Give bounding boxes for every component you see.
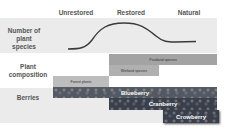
bar-wetland-species: Wetland species <box>109 65 159 76</box>
bar-crowberry: Crowberry <box>163 110 219 123</box>
row-label-composition: Plant composition <box>0 63 56 79</box>
species-curve <box>0 0 228 60</box>
row-label-berries: Berries <box>0 94 56 102</box>
bar-blueberry: Blueberry <box>53 87 217 98</box>
bar-peatland-species: Peatland species <box>109 54 217 65</box>
bar-forest-plants: Forest plants <box>53 76 109 87</box>
bar-cranberry: Cranberry <box>109 98 217 110</box>
